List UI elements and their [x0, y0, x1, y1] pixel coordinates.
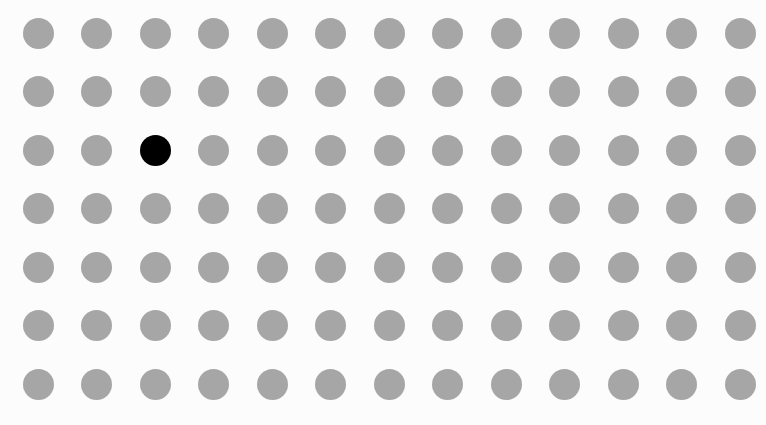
dot[interactable]: [81, 369, 112, 400]
dot[interactable]: [198, 310, 229, 341]
dot[interactable]: [491, 369, 522, 400]
dot[interactable]: [315, 76, 346, 107]
dot[interactable]: [608, 18, 639, 49]
dot[interactable]: [491, 76, 522, 107]
dot[interactable]: [374, 310, 405, 341]
dot[interactable]: [198, 18, 229, 49]
dot[interactable]: [198, 193, 229, 224]
dot[interactable]: [140, 310, 171, 341]
dot[interactable]: [666, 76, 697, 107]
dot[interactable]: [725, 193, 756, 224]
dot[interactable]: [666, 193, 697, 224]
dot[interactable]: [257, 369, 288, 400]
dot[interactable]: [432, 18, 463, 49]
dot[interactable]: [81, 252, 112, 283]
dot[interactable]: [725, 135, 756, 166]
dot[interactable]: [549, 76, 580, 107]
dot[interactable]: [666, 18, 697, 49]
dot[interactable]: [432, 252, 463, 283]
dot[interactable]: [23, 135, 54, 166]
dot[interactable]: [140, 76, 171, 107]
dot[interactable]: [432, 369, 463, 400]
dot[interactable]: [315, 310, 346, 341]
dot[interactable]: [140, 18, 171, 49]
dot[interactable]: [23, 310, 54, 341]
dot[interactable]: [23, 18, 54, 49]
dot[interactable]: [374, 135, 405, 166]
dot[interactable]: [23, 193, 54, 224]
dot[interactable]: [549, 310, 580, 341]
dot[interactable]: [23, 369, 54, 400]
dot[interactable]: [666, 310, 697, 341]
dot[interactable]: [491, 18, 522, 49]
dot[interactable]: [23, 76, 54, 107]
dot[interactable]: [608, 252, 639, 283]
dot[interactable]: [491, 310, 522, 341]
dot[interactable]: [549, 369, 580, 400]
dot[interactable]: [140, 193, 171, 224]
dot[interactable]: [140, 252, 171, 283]
dot[interactable]: [608, 310, 639, 341]
dot[interactable]: [432, 310, 463, 341]
dot[interactable]: [257, 310, 288, 341]
dot[interactable]: [666, 369, 697, 400]
dot[interactable]: [315, 369, 346, 400]
dot[interactable]: [432, 193, 463, 224]
dot[interactable]: [725, 252, 756, 283]
dot[interactable]: [666, 252, 697, 283]
dot[interactable]: [315, 18, 346, 49]
dot[interactable]: [725, 18, 756, 49]
dot[interactable]: [432, 76, 463, 107]
dot[interactable]: [608, 76, 639, 107]
dot[interactable]: [374, 193, 405, 224]
dot[interactable]: [257, 18, 288, 49]
dot[interactable]: [374, 369, 405, 400]
dot[interactable]: [549, 252, 580, 283]
dot[interactable]: [374, 18, 405, 49]
dot[interactable]: [315, 135, 346, 166]
dot[interactable]: [608, 135, 639, 166]
dot-grid: [0, 0, 766, 425]
dot[interactable]: [374, 252, 405, 283]
dot[interactable]: [23, 252, 54, 283]
dot[interactable]: [608, 369, 639, 400]
dot[interactable]: [198, 76, 229, 107]
highlighted-dot[interactable]: [140, 135, 171, 166]
dot[interactable]: [549, 135, 580, 166]
dot[interactable]: [81, 135, 112, 166]
dot[interactable]: [374, 76, 405, 107]
dot[interactable]: [81, 310, 112, 341]
dot[interactable]: [315, 252, 346, 283]
dot[interactable]: [725, 76, 756, 107]
dot[interactable]: [198, 369, 229, 400]
dot[interactable]: [198, 135, 229, 166]
dot[interactable]: [666, 135, 697, 166]
dot[interactable]: [257, 135, 288, 166]
dot[interactable]: [257, 193, 288, 224]
dot[interactable]: [315, 193, 346, 224]
dot[interactable]: [257, 252, 288, 283]
dot[interactable]: [81, 76, 112, 107]
dot[interactable]: [725, 310, 756, 341]
dot[interactable]: [432, 135, 463, 166]
dot[interactable]: [608, 193, 639, 224]
dot[interactable]: [81, 18, 112, 49]
dot[interactable]: [491, 135, 522, 166]
dot[interactable]: [257, 76, 288, 107]
dot[interactable]: [491, 252, 522, 283]
dot[interactable]: [491, 193, 522, 224]
dot[interactable]: [549, 18, 580, 49]
dot[interactable]: [198, 252, 229, 283]
dot[interactable]: [140, 369, 171, 400]
dot[interactable]: [549, 193, 580, 224]
dot[interactable]: [725, 369, 756, 400]
dot[interactable]: [81, 193, 112, 224]
